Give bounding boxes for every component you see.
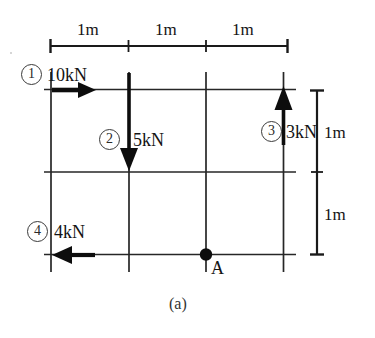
diagram-canvas	[0, 0, 375, 338]
force-marker-1: 1	[21, 64, 42, 85]
grid-lines	[44, 72, 296, 272]
right-dimension-label-2: 1m	[324, 206, 346, 223]
force-arrow-2	[120, 73, 138, 171]
top-dimension-label-2: 1m	[155, 21, 177, 38]
force-marker-4: 4	[27, 221, 48, 242]
force-marker-3: 3	[261, 121, 282, 142]
force-label-1: 10kN	[47, 66, 87, 84]
top-dimension-bar	[50, 39, 288, 53]
force-label-3: 3kN	[286, 123, 317, 141]
right-dimension-label-1: 1m	[324, 124, 346, 141]
force-marker-2: 2	[99, 129, 120, 150]
right-dimension-bar	[310, 90, 324, 255]
force-diagram-figure: 1m 1m 1m 1m 1m 1 10kN 2 5kN 3 3kN 4 4kN …	[0, 0, 375, 338]
force-arrow-4-head	[52, 246, 72, 264]
top-dimension-label-1: 1m	[77, 21, 99, 38]
top-dimension-label-3: 1m	[232, 21, 254, 38]
point-a-label: A	[211, 259, 224, 277]
force-arrow-4	[52, 246, 95, 264]
figure-caption: (a)	[169, 296, 187, 312]
force-arrow-2-head	[120, 148, 138, 171]
force-label-4: 4kN	[54, 223, 85, 241]
force-label-2: 5kN	[133, 131, 164, 149]
